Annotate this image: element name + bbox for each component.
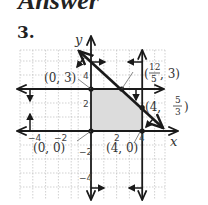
vertex-label-0-0: (0, 0) <box>33 141 65 155</box>
vertex-label-12-5-3: ( 12 5 , 3) <box>144 62 180 84</box>
x-axis-label: x <box>170 134 178 149</box>
y-tick-2: 2 <box>83 99 89 109</box>
feasible-region-graph: y x −4 −2 2 4 4 2 −2 −4 (0, 3) (0, 0) (4… <box>0 0 208 205</box>
vertex-label-4-0: (4, 0) <box>106 141 138 155</box>
x-tick-4: 4 <box>139 133 145 143</box>
feasible-region <box>91 89 142 131</box>
y-tick-4: 4 <box>83 71 89 81</box>
svg-text:5: 5 <box>151 74 157 84</box>
y-axis-label: y <box>74 32 83 47</box>
svg-text:12: 12 <box>149 62 160 72</box>
svg-text:, 3): , 3) <box>160 67 180 81</box>
vertex-label-4-5-3: (4, 5 3 ) <box>145 95 189 117</box>
vertex-label-0-3: (0, 3) <box>44 71 76 85</box>
svg-text:5: 5 <box>175 95 181 105</box>
y-tick-neg4: −4 <box>79 173 93 183</box>
svg-text:): ) <box>184 100 189 114</box>
y-tick-neg2: −2 <box>79 147 92 157</box>
svg-text:(: ( <box>144 67 149 81</box>
svg-text:(4,: (4, <box>145 100 161 114</box>
svg-text:3: 3 <box>175 107 181 117</box>
